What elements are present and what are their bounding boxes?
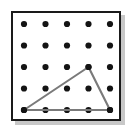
peg-dot xyxy=(107,85,113,91)
geoboard-canvas xyxy=(0,0,134,131)
peg-dot xyxy=(64,21,70,27)
triangle-vertex-peg xyxy=(85,64,91,70)
peg-dot xyxy=(42,64,48,70)
triangle-vertex-peg xyxy=(21,107,27,113)
peg-dot xyxy=(107,21,113,27)
peg-dot xyxy=(42,85,48,91)
triangle-vertex-peg xyxy=(107,107,113,113)
peg-dot xyxy=(42,42,48,48)
peg-dot xyxy=(21,21,27,27)
peg-dot xyxy=(107,42,113,48)
peg-dot xyxy=(85,42,91,48)
peg-dot xyxy=(85,21,91,27)
peg-dot xyxy=(21,85,27,91)
peg-dot xyxy=(64,85,70,91)
peg-dot xyxy=(21,64,27,70)
peg-dot xyxy=(64,64,70,70)
peg-dot xyxy=(42,21,48,27)
peg-dot xyxy=(107,64,113,70)
peg-dot xyxy=(21,42,27,48)
peg-dot xyxy=(64,42,70,48)
geoboard-figure xyxy=(0,0,134,131)
peg-dot xyxy=(85,85,91,91)
